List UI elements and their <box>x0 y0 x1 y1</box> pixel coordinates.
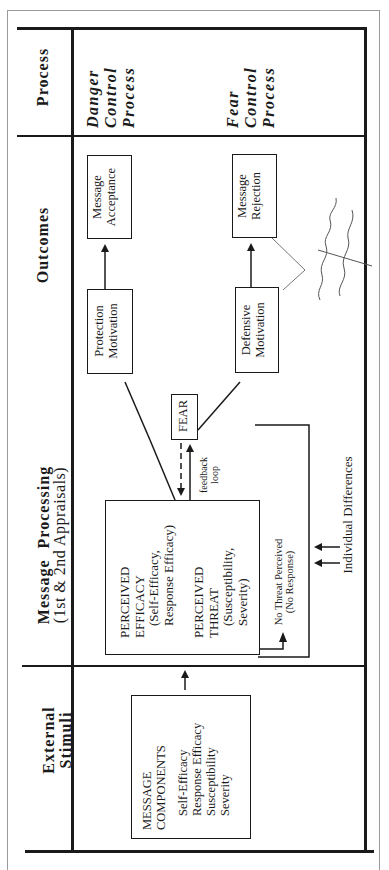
individual-differences-bracket <box>255 425 309 657</box>
arrow-fear-to-defensive <box>198 382 240 430</box>
annotation-pointer <box>272 238 305 290</box>
arrow-efficacy-to-protection <box>125 382 150 440</box>
handwritten-annotation <box>318 198 372 300</box>
